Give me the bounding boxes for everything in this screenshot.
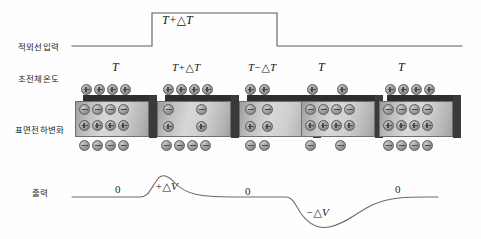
output-waveform [0,0,481,239]
figure-canvas: 적외선입력 초전체온도 표면전하변화 출력 T+△T T T+△T T−△T T… [0,0,481,239]
output-annotation-negative-peak: −△V [306,206,329,219]
output-curve-path [72,176,438,228]
output-annotation-zero-2: 0 [245,185,251,197]
output-annotation-zero-3: 0 [395,183,401,195]
output-annotation-zero-1: 0 [115,183,121,195]
output-annotation-positive-peak: +△V [155,180,178,193]
